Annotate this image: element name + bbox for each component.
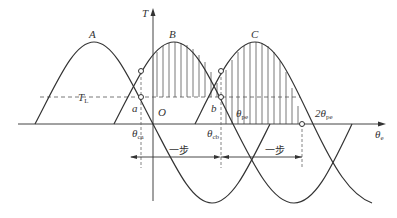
curve-c-label: C [251, 29, 258, 40]
point-a-label: a [132, 103, 138, 114]
arrow-left-icon [222, 155, 229, 159]
curve-b-label: B [169, 29, 176, 40]
two-theta-pe-label: 2θpe [315, 108, 333, 121]
load-torque-sub: L [84, 97, 88, 105]
arrow-right-icon [295, 155, 302, 159]
curve-a-label: A [89, 29, 96, 40]
two-theta-pe-main: 2θ [315, 107, 326, 119]
arrow-right-icon [214, 155, 221, 159]
x-axis-arrow-icon [378, 122, 386, 127]
y-axis-arrow-icon [151, 8, 156, 16]
point-two-theta-pe [300, 122, 305, 127]
theta-cb-label: θcb [207, 128, 219, 141]
arrow-left-icon [130, 155, 137, 159]
two-theta-pe-sub: pe [326, 113, 333, 121]
theta-ca-label: θca [132, 128, 144, 141]
theta-pe-sub: pe [241, 113, 248, 121]
y-axis-label: T [142, 8, 148, 19]
curve-b [114, 42, 352, 203]
step-label-1: 一步 [169, 146, 189, 156]
x-axis-label: θe [375, 129, 384, 142]
point-b-label: b [211, 103, 217, 114]
load-torque-label: TL [78, 92, 88, 105]
point-upper-a [139, 69, 144, 74]
origin-label: O [158, 107, 166, 118]
diagram-canvas [0, 0, 397, 218]
theta-ca-sub: ca [137, 133, 143, 141]
point-a [139, 95, 144, 100]
x-axis-sub: e [380, 134, 383, 142]
theta-pe-label: θpe [236, 108, 248, 121]
point-b [219, 95, 224, 100]
theta-cb-sub: cb [212, 133, 219, 141]
step-label-2: 一步 [265, 146, 285, 156]
curve-c [195, 42, 372, 203]
point-upper-b [219, 69, 224, 74]
